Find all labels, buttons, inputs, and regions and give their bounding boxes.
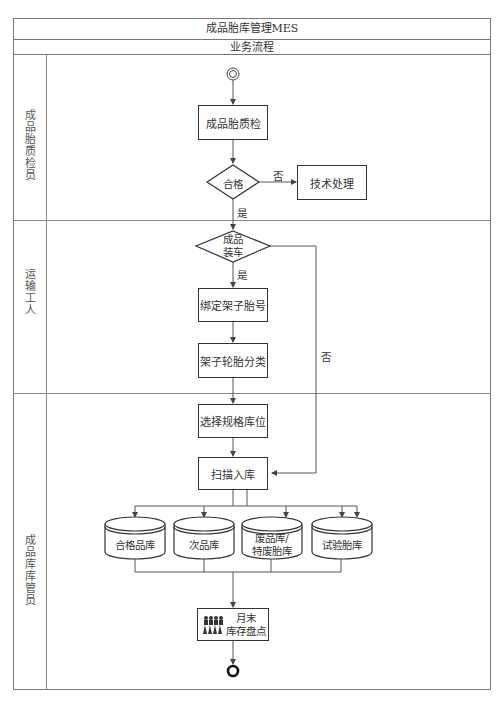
process-scan-in[interactable]: 扫描入库 <box>198 457 268 490</box>
store-qualified[interactable]: 合格品库 <box>105 539 165 552</box>
edge-label-no-2: 否 <box>321 349 331 364</box>
decision-loading[interactable]: 成品 装车 <box>219 233 247 259</box>
store-test[interactable]: 试验胎库 <box>312 539 372 552</box>
decision-loading-line2: 装车 <box>219 246 247 259</box>
store-scrap-label-line1: 废品库/ <box>242 532 302 545</box>
process-classify[interactable]: 架子轮胎分类 <box>198 343 268 378</box>
inventory-label-line1: 月末 <box>224 612 268 625</box>
process-monthly-inventory[interactable]: 月末 库存盘点 <box>197 608 269 641</box>
store-scrap-label-line2: 特废胎库 <box>242 545 302 558</box>
people-group-icon <box>202 615 224 635</box>
store-defective-label: 次品库 <box>174 539 234 552</box>
edge-label-yes-2: 是 <box>237 267 247 282</box>
store-cylinder-2 <box>174 517 234 559</box>
process-select-location[interactable]: 选择规格库位 <box>198 404 268 438</box>
edge-label-yes-1: 是 <box>237 205 247 220</box>
store-qualified-label: 合格品库 <box>105 539 165 552</box>
store-cylinder-4 <box>312 517 372 559</box>
process-inspect[interactable]: 成品胎质检 <box>198 105 268 140</box>
store-defective[interactable]: 次品库 <box>174 539 234 552</box>
store-test-label: 试验胎库 <box>312 539 372 552</box>
inventory-label-line2: 库存盘点 <box>224 625 268 638</box>
decision-loading-line1: 成品 <box>219 233 247 246</box>
edge-label-no-1: 否 <box>273 168 283 183</box>
start-node <box>227 68 239 80</box>
decision-qualified[interactable]: 合格 <box>220 176 246 191</box>
store-scrap[interactable]: 废品库/ 特废胎库 <box>242 532 302 558</box>
end-node <box>227 665 239 677</box>
inventory-label: 月末 库存盘点 <box>224 612 268 638</box>
process-tech[interactable]: 技术处理 <box>297 165 367 200</box>
store-cylinder-1 <box>105 517 165 559</box>
process-bind-rack[interactable]: 绑定架子胎号 <box>198 288 268 322</box>
